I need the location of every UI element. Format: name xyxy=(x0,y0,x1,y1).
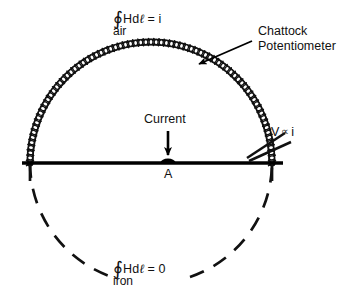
coil-turn-loop xyxy=(28,151,34,155)
voltage-symbol: V xyxy=(271,125,279,139)
coil-turn-loop xyxy=(133,40,138,46)
chattock-potentiometer-label: Chattock Potentiometer xyxy=(258,24,336,54)
coil-turn-loop xyxy=(174,42,179,48)
coil-turn-loop xyxy=(144,39,148,44)
coil-turn-loop xyxy=(27,156,32,160)
voltage-proportional-label: V∝i xyxy=(271,126,294,139)
contour-integral-icon: ∮ xyxy=(113,12,123,26)
iron-equation-value: = 0 xyxy=(147,263,165,276)
point-a-label: A xyxy=(164,168,172,181)
air-equation-value: = i xyxy=(147,13,161,26)
coil-turn-loop xyxy=(30,135,36,140)
coil-turn-loop xyxy=(32,125,38,130)
current-label: Current xyxy=(144,113,186,126)
contour-integral-icon: ∮ xyxy=(113,262,123,276)
air-path-equation: ∮ Hd ℓ = i air xyxy=(113,12,161,37)
coil-turn-loop xyxy=(164,40,169,46)
chattock-coil-arc xyxy=(27,39,276,166)
chattock-label-line1: Chattock xyxy=(258,24,336,39)
coil-turn-loop xyxy=(118,43,123,49)
proportional-icon: ∝ xyxy=(281,125,289,137)
coil-turn-loop xyxy=(123,42,128,48)
chattock-label-line2: Potentiometer xyxy=(258,39,336,54)
air-equation-row: ∮ Hd ℓ = i xyxy=(113,12,161,26)
coil-turn-loop xyxy=(264,125,270,130)
iron-return-path xyxy=(30,163,272,277)
current-carrying-conductor xyxy=(160,158,176,163)
coil-turn-loop xyxy=(128,41,133,47)
coil-turn-loop xyxy=(28,145,34,150)
coil-turn-loop xyxy=(184,44,189,50)
coil-turn-loop xyxy=(159,40,163,46)
coil-turn-loop xyxy=(154,39,158,44)
iron-equation-row: ∮ Hd ℓ = 0 xyxy=(113,262,165,276)
coil-turn-loop xyxy=(179,43,184,49)
coil-turn-loop xyxy=(29,140,35,145)
coil-turn-loop xyxy=(149,39,153,44)
air-equation-ell: ℓ xyxy=(139,13,144,26)
voltage-current-variable: i xyxy=(291,125,294,139)
chattock-potentiometer-figure: ∮ Hd ℓ = i air ∮ Hd ℓ = 0 iron Chattock … xyxy=(0,0,346,304)
iron-equation-ell: ℓ xyxy=(139,263,144,276)
coil-turn-loop xyxy=(269,156,274,160)
iron-path-equation: ∮ Hd ℓ = 0 iron xyxy=(113,262,165,287)
coil-turn-loop xyxy=(31,130,37,135)
coil-turn-loop xyxy=(113,44,118,50)
coil-turn-loop xyxy=(139,40,143,46)
coil-turn-loop xyxy=(169,41,174,47)
